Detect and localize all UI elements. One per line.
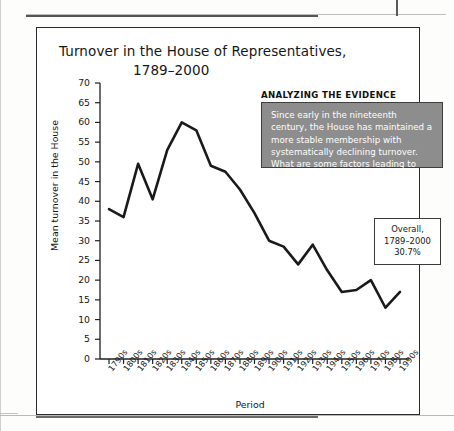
- y-axis-tick-label: 60: [68, 116, 90, 127]
- y-axis-tick-label: 65: [68, 97, 90, 108]
- scan-artifact-bottom-rule-dark: [36, 416, 318, 418]
- y-axis-tick-label: 40: [68, 195, 90, 206]
- y-axis-tick-label: 5: [68, 333, 90, 344]
- y-axis-tick-label: 55: [68, 136, 90, 147]
- y-axis-tick-marks: [95, 83, 100, 359]
- y-axis-tick-label: 25: [68, 254, 90, 265]
- y-axis-tick-label: 70: [68, 77, 90, 88]
- scan-artifact-left-nub: [0, 413, 18, 414]
- turnover-data-line: [109, 122, 400, 307]
- y-axis-tick-label: 20: [68, 274, 90, 285]
- y-axis-tick-label: 35: [68, 215, 90, 226]
- y-axis-tick-label: 30: [68, 235, 90, 246]
- figure-container: Turnover in the House of Representatives…: [36, 27, 420, 415]
- scan-artifact-left-edge: [0, 0, 1, 431]
- y-axis-tick-label: 50: [68, 156, 90, 167]
- scan-artifact-top-rule-dark: [26, 15, 318, 17]
- y-axis-tick-label: 10: [68, 314, 90, 325]
- y-axis-tick-label: 0: [68, 353, 90, 364]
- chart-axes: [100, 83, 409, 359]
- scan-artifact-tick-mark: [396, 0, 398, 16]
- y-axis-tick-label: 45: [68, 176, 90, 187]
- y-axis-tick-label: 15: [68, 294, 90, 305]
